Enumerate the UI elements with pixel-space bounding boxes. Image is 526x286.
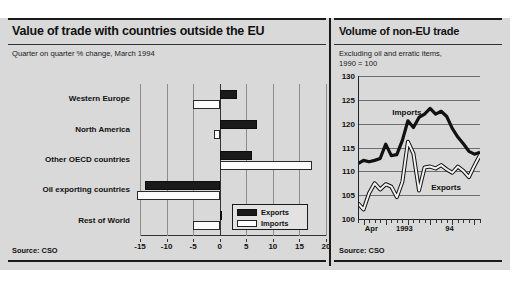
panel-divider: [329, 14, 331, 266]
bar-exports-3: [145, 181, 219, 190]
bar-imports-0: [193, 100, 220, 109]
bar-exports-4: [220, 211, 222, 220]
line-xtick-label-0: Apr: [365, 224, 378, 233]
line-xtickmark-20: [469, 219, 470, 223]
line-x-tick-labels: Apr199394: [358, 224, 480, 236]
line-xtickmark-17: [452, 219, 453, 225]
line-xtickmark-1: [364, 219, 365, 225]
bar-category-labels: Western EuropeNorth AmericaOther OECD co…: [8, 84, 136, 236]
bar-imports-1: [214, 130, 219, 139]
line-xtickmark-11: [419, 219, 420, 223]
left-panel-source: Source: CSO: [12, 246, 58, 255]
line-xtickmark-18: [458, 219, 459, 223]
left-panel-bottom-rule: [8, 260, 326, 262]
bar-exports-1: [220, 120, 257, 129]
right-panel-source: Source: CSO: [339, 246, 385, 255]
bar-x-tick-labels: -15-10-505101520: [140, 239, 326, 251]
line-xtickmark-19: [463, 219, 464, 223]
bar-xtick-5: 5: [244, 242, 248, 251]
legend-swatch-exports: [237, 209, 257, 216]
line-xtick-label-1: 1993: [396, 224, 413, 233]
bar-category-label-4: Rest of World: [78, 216, 130, 225]
line-xtickmark-2: [369, 219, 370, 223]
figure-root: Value of trade with countries outside th…: [0, 0, 526, 286]
bar-imports-4: [193, 221, 220, 230]
legend-label-imports: Imports: [261, 219, 289, 228]
right-panel-subtitle-line2: 1990 = 100: [339, 59, 377, 68]
bar-chart-legend: Exports Imports: [232, 204, 308, 230]
line-xtickmark-13: [430, 219, 431, 225]
bar-xtick--15: -15: [134, 242, 146, 251]
right-panel-subtitle-line1: Excluding oil and erratic items,: [339, 49, 442, 58]
line-ytick-110: 110: [342, 167, 355, 176]
line-ytick-100: 100: [342, 215, 355, 224]
left-panel-subtitle: Quarter on quarter % change, March 1994: [12, 49, 155, 58]
bar-xtick--5: -5: [190, 242, 197, 251]
line-xtickmark-14: [436, 219, 437, 223]
bar-category-label-3: Oil exporting countries: [42, 185, 130, 194]
line-xtickmark-21: [474, 219, 475, 225]
bar-gridline-20: [326, 84, 327, 236]
line-xtickmark-7: [397, 219, 398, 223]
bar-exports-2: [220, 151, 252, 160]
legend-row-imports: Imports: [237, 219, 303, 228]
line-xtickmark-6: [391, 219, 392, 223]
line-xtickmark-16: [447, 219, 448, 223]
line-y-axis: [358, 76, 359, 219]
line-xtickmark-15: [441, 219, 442, 223]
legend-swatch-imports: [237, 220, 257, 227]
legend-row-exports: Exports: [237, 208, 303, 217]
bar-category-label-0: Western Europe: [69, 94, 130, 103]
bar-xtick-15: 15: [295, 242, 304, 251]
line-ytick-105: 105: [342, 191, 355, 200]
line-series-label-exports: Exports: [431, 183, 461, 192]
bar-x-axis: [140, 235, 326, 236]
left-panel-title: Value of trade with countries outside th…: [12, 24, 264, 38]
bar-category-label-2: Other OECD countries: [45, 155, 130, 164]
line-xtickmark-4: [380, 219, 381, 223]
right-panel-title: Volume of non-EU trade: [339, 25, 459, 37]
line-xtickmark-12: [425, 219, 426, 223]
line-xtick-label-2: 94: [445, 224, 453, 233]
right-chart-panel: Volume of non-EU trade Excluding oil and…: [334, 18, 502, 262]
bar-xtick--10: -10: [161, 242, 173, 251]
line-xtickmark-9: [408, 219, 409, 225]
line-ytick-120: 120: [342, 119, 355, 128]
bar-xtick-10: 10: [268, 242, 277, 251]
line-ytick-115: 115: [342, 143, 355, 152]
bar-imports-3: [137, 191, 219, 200]
line-xtickmark-0: [358, 219, 359, 223]
line-xtickmark-3: [375, 219, 376, 223]
bar-gridline--10: [167, 84, 168, 236]
line-series-svg: [358, 76, 480, 219]
line-series-label-imports: Imports: [392, 108, 421, 117]
bar-imports-2: [220, 161, 312, 170]
line-xtickmark-22: [480, 219, 481, 223]
right-panel-top-rule: [334, 18, 502, 20]
bar-xtick-0: 0: [217, 242, 221, 251]
line-x-tickmarks: [358, 219, 480, 224]
left-chart-panel: Value of trade with countries outside th…: [8, 18, 326, 262]
left-panel-top-rule: [8, 18, 326, 20]
right-panel-title-rule: [334, 44, 502, 45]
line-exports-outline: [358, 142, 480, 210]
legend-label-exports: Exports: [261, 208, 289, 217]
line-xtickmark-8: [402, 219, 403, 223]
line-ytick-125: 125: [342, 95, 355, 104]
right-panel-bottom-rule: [334, 260, 502, 262]
line-chart-plot-area: ImportsExports: [358, 76, 480, 219]
line-y-tick-labels: 100105110115120125130: [334, 76, 355, 219]
left-panel-title-rule: [8, 44, 326, 45]
bar-category-label-1: North America: [75, 125, 130, 134]
line-ytick-130: 130: [342, 72, 355, 81]
line-xtickmark-10: [413, 219, 414, 223]
line-exports-fill: [358, 142, 480, 210]
bar-gridline--15: [140, 84, 141, 236]
bar-exports-0: [220, 90, 237, 99]
line-xtickmark-5: [386, 219, 387, 225]
